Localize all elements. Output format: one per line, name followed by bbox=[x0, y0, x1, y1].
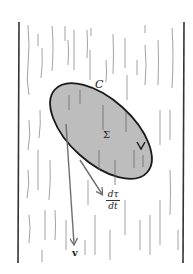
left-wall bbox=[18, 22, 19, 263]
derivative-numerator: dτ bbox=[108, 190, 119, 199]
derivative-denominator: dt bbox=[108, 202, 117, 211]
fluid-flow-diagram bbox=[0, 0, 193, 274]
curve-label: C bbox=[95, 79, 103, 90]
surface-label: Σ bbox=[103, 130, 110, 140]
derivative-label: dτ dt bbox=[106, 190, 120, 211]
velocity-label: v bbox=[72, 248, 78, 258]
right-wall bbox=[183, 22, 184, 263]
